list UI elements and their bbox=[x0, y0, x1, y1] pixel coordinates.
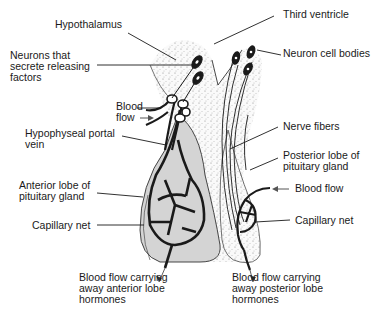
label-neuron-cell-bodies: Neuron cell bodies bbox=[283, 48, 370, 59]
label-portal-vein: Hypophyseal portal vein bbox=[25, 128, 115, 150]
label-blood-out-posterior: Blood flow carrying away posterior lobe … bbox=[232, 272, 323, 305]
label-blood-out-anterior: Blood flow carrying away anterior lobe h… bbox=[79, 272, 168, 305]
label-posterior-lobe: Posterior lobe of pituitary gland bbox=[283, 150, 359, 172]
label-hypothalamus: Hypothalamus bbox=[55, 19, 122, 30]
blood-flow-arrow-icon bbox=[272, 186, 278, 192]
label-capillary-net-left: Capillary net bbox=[32, 220, 90, 231]
label-capillary-net-right: Capillary net bbox=[295, 215, 353, 226]
label-blood-flow-right: Blood flow bbox=[295, 183, 343, 194]
label-blood-flow-left: Blood flow bbox=[116, 101, 143, 123]
label-anterior-lobe: Anterior lobe of pituitary gland bbox=[19, 180, 90, 202]
label-nerve-fibers: Nerve fibers bbox=[283, 121, 340, 132]
blood-flow-arrow-icon bbox=[148, 115, 154, 121]
label-third-ventricle: Third ventricle bbox=[283, 9, 349, 20]
label-releasing-neurons: Neurons that secrete releasing factors bbox=[10, 50, 90, 83]
